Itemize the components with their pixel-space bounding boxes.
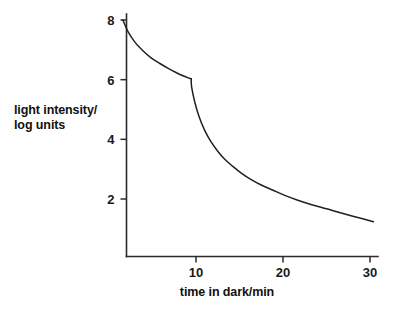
chart-figure: 2468102030 light intensity/ log units ti… [0,0,402,314]
x-tick-label: 30 [363,266,377,279]
data-curve [191,79,373,222]
x-axis-title: time in dark/min [180,285,274,299]
axis-lines [127,14,379,257]
y-tick-label: 8 [107,14,114,27]
y-tick-label: 4 [107,133,114,146]
x-tick-label: 20 [276,266,290,279]
y-tick-label: 2 [107,193,114,206]
y-axis-title: light intensity/ log units [14,103,110,134]
x-tick-label: 10 [189,266,203,279]
y-tick-label: 6 [107,73,114,86]
y-axis-ticks [121,20,127,199]
data-series-group [123,20,374,222]
x-axis-ticks [196,257,370,263]
data-curve [123,20,191,79]
y-axis-title-line-1: light intensity/ [14,103,97,117]
y-axis-title-line-2: log units [14,118,65,132]
